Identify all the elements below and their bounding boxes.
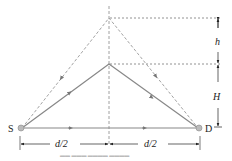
right-half-label: d/2 xyxy=(144,138,157,149)
image-path xyxy=(22,18,198,128)
left-half-label: d/2 xyxy=(55,138,68,149)
h-label: h xyxy=(215,36,220,47)
destination-node xyxy=(196,125,202,131)
destination-label: D xyxy=(205,123,212,134)
source-node xyxy=(18,125,24,131)
H-label: H xyxy=(212,91,221,102)
two-ray-diagram: S D h H d/2 d/2 ▬▬ ▬▬▬ ▬▬▬▬ ▬▬▬▬ xyxy=(0,0,232,161)
source-label: S xyxy=(8,123,14,134)
figure-caption: ▬▬ ▬▬▬ ▬▬▬▬ ▬▬▬▬ xyxy=(60,152,129,158)
